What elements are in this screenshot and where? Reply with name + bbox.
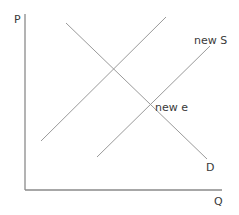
new-supply-label: new S [194, 34, 227, 47]
x-axis-label: Q [214, 195, 223, 208]
supply-demand-diagram: P Q D new S new e [0, 0, 239, 215]
original-supply-curve [41, 17, 166, 141]
new-supply-curve [97, 46, 210, 157]
demand-curve [66, 23, 207, 159]
y-axis-label: P [14, 13, 21, 26]
new-equilibrium-label: new e [155, 101, 188, 114]
demand-label: D [206, 161, 214, 174]
